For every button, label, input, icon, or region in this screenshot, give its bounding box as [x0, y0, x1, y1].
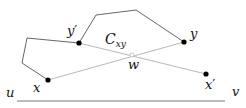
label-w: w: [128, 57, 139, 72]
label-x: x: [33, 80, 41, 95]
label-c-xy: Cxy: [105, 31, 127, 49]
label-u: u: [6, 85, 14, 100]
label-x-prime: x′: [205, 77, 215, 92]
point-y: [181, 39, 186, 44]
label-v: v: [232, 84, 240, 99]
point-y-prime: [76, 40, 81, 45]
point-x: [45, 77, 50, 82]
diagram-canvas: x y′ y x′ w Cxy u v: [0, 0, 246, 108]
label-y-prime: y′: [66, 23, 77, 38]
label-y: y: [189, 26, 198, 41]
point-x-prime: [203, 71, 208, 76]
curve-path: [22, 10, 184, 80]
segment-yprime-xprime: [79, 43, 206, 74]
